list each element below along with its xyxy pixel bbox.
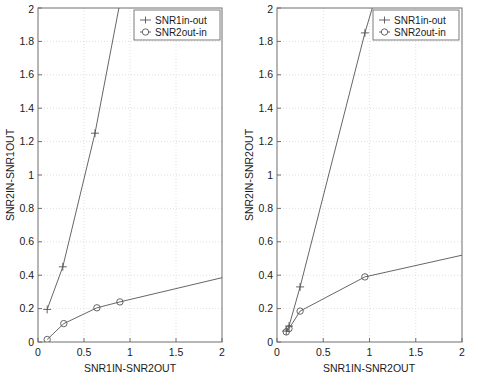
right-x-ticks [277, 338, 462, 342]
right-y-tick-labels: 0 0.2 0.4 0.6 0.8 1 1.2 1.4 1.6 1.8 2 [258, 3, 273, 348]
left-xtick-2: 1 [127, 346, 133, 358]
left-series-snr2out-in-markers [44, 299, 123, 343]
right-xtick-1: 0.5 [316, 346, 331, 358]
right-y-ticks [277, 8, 281, 342]
right-legend[interactable]: SNR1in-out SNR2out-in [373, 10, 459, 40]
left-y-ticks [38, 8, 42, 342]
right-legend-label-1: SNR2out-in [394, 27, 446, 38]
left-xtick-3: 1.5 [169, 346, 184, 358]
left-x-axis-title: SNR1IN-SNR2OUT [84, 362, 177, 374]
left-xtick-0: 0 [35, 346, 41, 358]
left-legend-label-1: SNR2out-in [155, 27, 207, 38]
left-ytick-6: 1.2 [19, 135, 34, 147]
right-series-snr2out-in-line [286, 255, 462, 332]
right-x-axis-title: SNR1IN-SNR2OUT [323, 362, 416, 374]
right-x-tick-labels: 0 0.5 1 1.5 2 [274, 346, 465, 358]
left-xtick-1: 0.5 [77, 346, 92, 358]
right-series-snr2out-in-markers [283, 274, 368, 335]
left-x-ticks [38, 338, 222, 342]
right-ytick-0: 0 [267, 336, 273, 348]
right-xtick-0: 0 [274, 346, 280, 358]
right-ytick-8: 1.6 [258, 68, 273, 80]
left-ytick-0: 0 [28, 336, 34, 348]
left-y-tick-labels: 0 0.2 0.4 0.6 0.8 1 1.2 1.4 1.6 1.8 2 [19, 3, 34, 348]
chart-panel-left: 0 0.2 0.4 0.6 0.8 1 1.2 1.4 1.6 1.8 2 0 … [0, 0, 239, 386]
right-ytick-10: 2 [267, 3, 273, 15]
left-plot-svg: 0 0.2 0.4 0.6 0.8 1 1.2 1.4 1.6 1.8 2 0 … [0, 0, 239, 386]
left-ytick-8: 1.6 [19, 68, 34, 80]
left-legend-label-0: SNR1in-out [155, 15, 207, 26]
right-ytick-7: 1.4 [258, 102, 273, 114]
right-plot-svg: 0 0.2 0.4 0.6 0.8 1 1.2 1.4 1.6 1.8 2 0 … [239, 0, 478, 386]
right-ytick-5: 1 [267, 169, 273, 181]
left-ytick-7: 1.4 [19, 102, 34, 114]
left-y-axis-title: SNR2IN-SNR1OUT [4, 128, 16, 221]
left-ytick-2: 0.4 [19, 269, 34, 281]
left-ytick-10: 2 [28, 3, 34, 15]
right-ytick-2: 0.4 [258, 269, 273, 281]
right-legend-label-0: SNR1in-out [394, 15, 446, 26]
chart-panel-right: 0 0.2 0.4 0.6 0.8 1 1.2 1.4 1.6 1.8 2 0 … [239, 0, 478, 386]
right-xtick-4: 2 [459, 346, 465, 358]
left-ytick-9: 1.8 [19, 35, 34, 47]
left-x-tick-labels: 0 0.5 1 1.5 2 [35, 346, 225, 358]
left-ytick-1: 0.2 [19, 302, 34, 314]
left-grid-horizontal [38, 41, 222, 308]
left-xtick-4: 2 [219, 346, 225, 358]
right-xtick-2: 1 [367, 346, 373, 358]
right-ytick-9: 1.8 [258, 35, 273, 47]
left-ytick-3: 0.6 [19, 235, 34, 247]
right-ytick-3: 0.6 [258, 235, 273, 247]
left-series-snr1in-out-markers [43, 129, 99, 313]
figure-container: 0 0.2 0.4 0.6 0.8 1 1.2 1.4 1.6 1.8 2 0 … [0, 0, 478, 386]
right-y-axis-title: SNR2IN-SNR2OUT [243, 128, 255, 221]
left-ytick-5: 1 [28, 169, 34, 181]
right-xtick-3: 1.5 [408, 346, 423, 358]
right-series-snr1in-out-line [286, 8, 372, 331]
right-ytick-6: 1.2 [258, 135, 273, 147]
right-ytick-1: 0.2 [258, 302, 273, 314]
left-series-snr1in-out-line [47, 8, 119, 309]
left-ytick-4: 0.8 [19, 202, 34, 214]
left-legend[interactable]: SNR1in-out SNR2out-in [134, 10, 220, 40]
right-ytick-4: 0.8 [258, 202, 273, 214]
